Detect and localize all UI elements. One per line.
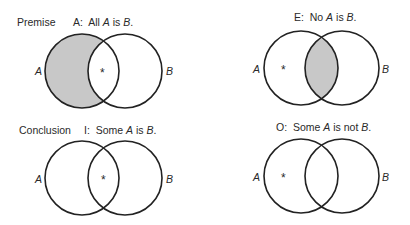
title-a-prefix: A: [73,16,83,28]
conclusion-label: Conclusion [19,125,71,136]
set-label-b: B [382,172,389,183]
title-i-text: Some A is B. [96,124,157,136]
asterisk-marker: * [281,172,286,184]
title-a: A: All A is B. [73,17,133,28]
set-label-a: A [253,64,260,75]
title-i-prefix: I: [84,124,90,136]
asterisk-marker: * [100,67,105,79]
set-label-b: B [382,64,389,75]
title-o-text: Some A is not B. [293,121,371,133]
title-o: O: Some A is not B. [276,122,371,133]
set-label-b: B [166,174,173,185]
set-label-b: B [166,66,173,77]
asterisk-marker: * [281,64,286,76]
set-label-a: A [35,174,42,185]
title-a-text: All A is B. [88,16,133,28]
circle-b [88,141,162,215]
set-label-a: A [253,172,260,183]
set-label-a: A [35,66,42,77]
title-e-text: No A is B. [310,11,357,23]
title-o-prefix: O: [276,121,287,133]
title-i: I: Some A is B. [84,125,156,136]
venn-diagrams-canvas [0,0,410,225]
title-e: E: No A is B. [294,12,356,23]
premise-label: Premise [17,17,56,28]
asterisk-marker: * [101,174,106,186]
circle-a [264,139,338,213]
circle-b [305,139,379,213]
title-e-prefix: E: [294,11,304,23]
circle-a [45,141,119,215]
